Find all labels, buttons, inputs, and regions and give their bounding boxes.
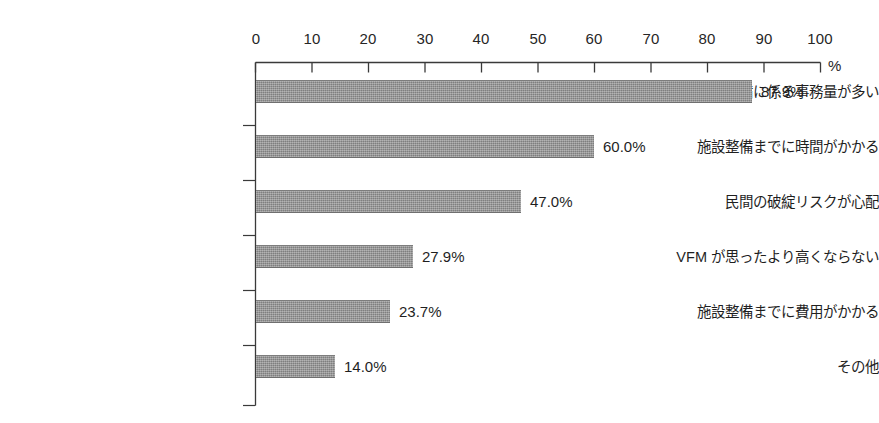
bar-5 bbox=[256, 300, 390, 323]
xtick-label-50: 50 bbox=[518, 30, 558, 48]
xtick-label-60: 60 bbox=[574, 30, 614, 48]
xtick-label-80: 80 bbox=[687, 30, 727, 48]
category-label-5: 施設整備までに費用がかかる bbox=[634, 301, 879, 323]
bar-4 bbox=[256, 245, 413, 268]
xtick-label-0: 0 bbox=[236, 30, 276, 48]
value-label-5: 23.7% bbox=[399, 302, 442, 322]
horizontal-bar-chart: 0 10 20 30 40 50 60 70 80 90 100 % 準備に係る… bbox=[0, 0, 879, 423]
xtick-label-100: 100 bbox=[800, 30, 840, 48]
value-label-6: 14.0% bbox=[344, 357, 387, 377]
category-label-4: VFM が思ったより高くならない bbox=[634, 246, 879, 268]
bar-6 bbox=[256, 355, 335, 378]
bar-2 bbox=[256, 135, 594, 158]
category-label-2: 施設整備までに時間がかかる bbox=[634, 136, 879, 158]
xtick-label-30: 30 bbox=[405, 30, 445, 48]
xtick-label-90: 90 bbox=[744, 30, 784, 48]
bar-3 bbox=[256, 190, 521, 213]
xtick-label-40: 40 bbox=[461, 30, 501, 48]
xtick-label-70: 70 bbox=[631, 30, 671, 48]
value-label-4: 27.9% bbox=[422, 247, 465, 267]
value-label-2: 60.0% bbox=[603, 137, 646, 157]
category-label-6: その他 bbox=[634, 356, 879, 378]
xtick-label-10: 10 bbox=[292, 30, 332, 48]
xtick-label-20: 20 bbox=[348, 30, 388, 48]
category-label-3: 民間の破綻リスクが心配 bbox=[634, 191, 879, 213]
value-label-1: 87.9% bbox=[761, 82, 804, 102]
bar-1 bbox=[256, 80, 752, 103]
axis-unit-label: % bbox=[828, 58, 841, 74]
value-label-3: 47.0% bbox=[530, 192, 573, 212]
